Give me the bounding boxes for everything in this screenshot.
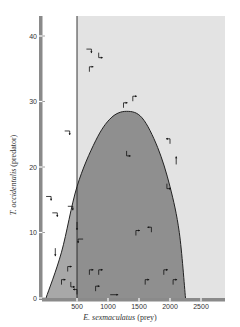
x-axis: 5001000150020002500 <box>42 298 225 310</box>
x-axis-bar <box>42 298 225 302</box>
x-tick-label: 1500 <box>131 303 147 310</box>
predator-prey-phase-chart: 010203040 5001000150020002500 E. sexmacu… <box>0 0 240 327</box>
x-tick-label: 1000 <box>100 303 116 310</box>
y-tick-label: 10 <box>29 229 37 236</box>
plot-regions <box>46 16 225 298</box>
y-axis: 010203040 <box>29 16 45 302</box>
y-axis-title: T. occidentalis (predator) <box>9 134 18 215</box>
y-tick-label: 30 <box>29 98 37 105</box>
x-axis-title: E. sexmaculatus (prey) <box>82 313 157 322</box>
x-tick-label: 500 <box>71 303 83 310</box>
trend-arrow-icon <box>65 131 71 135</box>
trend-arrow-icon <box>54 248 56 256</box>
trend-arrow-icon <box>52 213 58 217</box>
x-tick-label: 2000 <box>162 303 178 310</box>
y-tick-label: 20 <box>29 164 37 171</box>
y-tick-label: 0 <box>33 295 37 302</box>
y-axis-bar <box>39 16 43 300</box>
y-tick-label: 40 <box>29 33 37 40</box>
trend-arrow-icon <box>46 196 52 200</box>
x-tick-label: 2500 <box>193 303 209 310</box>
